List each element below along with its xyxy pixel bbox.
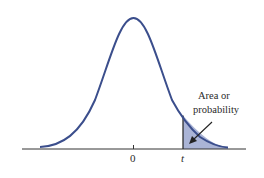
annotation-text-line2: probability [193, 104, 239, 116]
shaded-tail-area [183, 116, 228, 150]
tick-label-zero: 0 [130, 152, 136, 164]
annotation-text-line1: Area or [198, 90, 230, 102]
tick-label-t: t [181, 152, 184, 164]
density-curve [40, 18, 228, 148]
